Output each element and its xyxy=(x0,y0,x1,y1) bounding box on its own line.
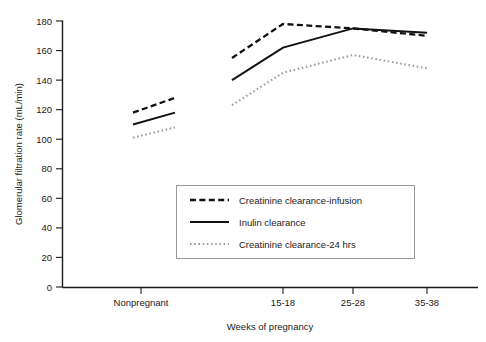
series-creatinine-infusion-pregnancy-line xyxy=(232,24,427,58)
series-creatinine-infusion-nonpregnant-segment xyxy=(133,98,175,113)
series-inulin-pregnancy-line xyxy=(232,28,427,80)
x-axis: Nonpregnant 15-18 25-28 35-38 Weeks of p… xyxy=(63,288,479,333)
y-tick-label-100: 100 xyxy=(36,134,52,145)
x-tick-label-nonpregnant: Nonpregnant xyxy=(114,297,169,308)
y-tick-label-120: 120 xyxy=(36,104,52,115)
legend: Creatinine clearance-infusion Inulin cle… xyxy=(177,186,415,259)
gfr-line-chart: 180 160 140 120 100 80 60 40 20 0 Glomer… xyxy=(0,0,486,342)
y-tick-label-0: 0 xyxy=(47,282,52,293)
x-tick-label-35-38: 35-38 xyxy=(415,297,439,308)
y-tick-label-40: 40 xyxy=(41,222,52,233)
x-tick-label-25-28: 25-28 xyxy=(341,297,365,308)
y-tick-label-60: 60 xyxy=(41,193,52,204)
x-axis-title: Weeks of pregnancy xyxy=(227,321,314,332)
x-tick-label-15-18: 15-18 xyxy=(271,297,295,308)
y-axis-title: Glomerular filtration rate (mL/min) xyxy=(13,83,24,225)
y-tick-label-160: 160 xyxy=(36,45,52,56)
y-tick-label-80: 80 xyxy=(41,163,52,174)
y-axis: 180 160 140 120 100 80 60 40 20 0 Glomer… xyxy=(13,16,63,293)
y-tick-label-20: 20 xyxy=(41,252,52,263)
legend-label-creatinine-infusion: Creatinine clearance-infusion xyxy=(239,195,362,206)
series-creatinine-24hrs-nonpregnant-segment xyxy=(133,127,175,137)
series-inulin-nonpregnant-segment xyxy=(133,113,175,125)
legend-label-creatinine-24hrs: Creatinine clearance-24 hrs xyxy=(239,239,356,250)
legend-label-inulin: Inulin clearance xyxy=(239,217,306,228)
y-tick-label-140: 140 xyxy=(36,75,52,86)
chart-figure: 180 160 140 120 100 80 60 40 20 0 Glomer… xyxy=(0,0,486,342)
series-group xyxy=(133,24,427,138)
y-tick-label-180: 180 xyxy=(36,16,52,27)
